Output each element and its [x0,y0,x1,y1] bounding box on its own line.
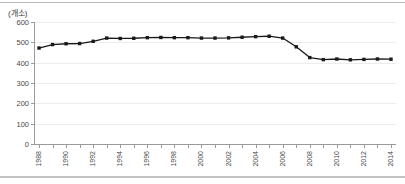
x-tick-mark [93,145,94,148]
x-tick-label: 1998 [170,151,177,167]
x-tick-mark [147,145,148,148]
data-point-marker [335,57,338,60]
x-tick-mark [323,145,324,148]
y-tick-mark [31,144,34,145]
x-tick-mark [39,145,40,148]
y-axis-unit-label: (개소) [8,7,27,18]
data-point-marker [173,36,176,39]
x-tick-mark [161,145,162,148]
x-tick-label: 2004 [252,151,259,167]
x-tick-mark [269,145,270,148]
x-tick-label: 1990 [62,151,69,167]
x-tick-label: 2012 [360,151,367,167]
data-point-marker [281,36,284,39]
y-tick-label: 200 [0,99,29,108]
x-tick-label: 2014 [387,151,394,167]
x-tick-mark [66,145,67,148]
data-series-line [34,22,396,144]
chart-figure: (개소) 0100200300400500600 198819901992199… [0,0,405,184]
plot-area [34,22,396,144]
top-divider [0,2,405,3]
x-tick-mark [188,145,189,148]
x-tick-mark [134,145,135,148]
x-tick-label: 1988 [35,151,42,167]
data-point-marker [322,58,325,61]
x-tick-mark [242,145,243,148]
x-tick-mark [377,145,378,148]
x-tick-label: 2006 [279,151,286,167]
data-point-marker [295,45,298,48]
data-point-marker [376,57,379,60]
data-point-marker [200,36,203,39]
y-tick-label: 500 [0,38,29,47]
x-tick-mark [53,145,54,148]
y-tick-mark [31,83,34,84]
x-tick-mark [174,145,175,148]
data-point-marker [64,42,67,45]
data-point-marker [362,58,365,61]
x-tick-label: 1992 [89,151,96,167]
data-point-marker [132,37,135,40]
x-tick-mark [120,145,121,148]
x-tick-mark [364,145,365,148]
bottom-divider [0,176,405,178]
data-point-marker [91,40,94,43]
x-tick-label: 1996 [143,151,150,167]
data-point-marker [159,36,162,39]
y-tick-mark [31,63,34,64]
data-point-marker [213,36,216,39]
data-point-marker [51,43,54,46]
data-point-marker [186,36,189,39]
x-tick-mark [391,145,392,148]
x-tick-mark [215,145,216,148]
data-point-marker [37,46,40,49]
data-point-marker [349,58,352,61]
data-point-marker [308,56,311,59]
y-tick-label: 600 [0,18,29,27]
data-point-marker [267,35,270,38]
x-tick-mark [283,145,284,148]
x-tick-mark [310,145,311,148]
y-tick-mark [31,22,34,23]
y-tick-mark [31,42,34,43]
data-point-marker [240,36,243,39]
x-tick-mark [107,145,108,148]
data-point-marker [227,36,230,39]
x-tick-mark [350,145,351,148]
x-tick-mark [256,145,257,148]
x-tick-mark [229,145,230,148]
x-tick-mark [337,145,338,148]
y-tick-mark [31,103,34,104]
x-tick-label: 2008 [306,151,313,167]
data-point-marker [389,58,392,61]
data-point-marker [78,42,81,45]
y-tick-mark [31,124,34,125]
data-point-marker [105,36,108,39]
y-axis-line [34,22,35,145]
y-tick-label: 100 [0,120,29,129]
data-point-marker [119,37,122,40]
x-tick-mark [201,145,202,148]
x-tick-label: 2002 [225,151,232,167]
y-tick-label: 400 [0,59,29,68]
x-tick-label: 2010 [333,151,340,167]
data-point-marker [146,36,149,39]
y-tick-label: 300 [0,79,29,88]
data-point-marker [254,35,257,38]
x-tick-label: 1994 [116,151,123,167]
x-tick-mark [80,145,81,148]
y-tick-label: 0 [0,140,29,149]
x-tick-label: 2000 [197,151,204,167]
x-tick-mark [296,145,297,148]
